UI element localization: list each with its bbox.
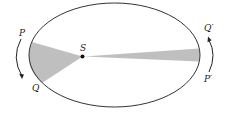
sector-p-prime-q-prime <box>84 49 200 62</box>
kepler-diagram: S P Q Q′ P′ <box>0 0 229 114</box>
arrow-p-to-q-icon <box>16 39 22 76</box>
label-p: P <box>18 28 26 38</box>
label-q-prime: Q′ <box>204 23 213 33</box>
label-q: Q <box>32 83 40 93</box>
label-p-prime: P′ <box>203 74 212 84</box>
sun-dot <box>81 55 85 59</box>
sun-label: S <box>80 43 86 53</box>
arrow-p-prime-to-q-prime-icon <box>209 40 213 72</box>
arrowhead-down-icon <box>19 74 24 79</box>
